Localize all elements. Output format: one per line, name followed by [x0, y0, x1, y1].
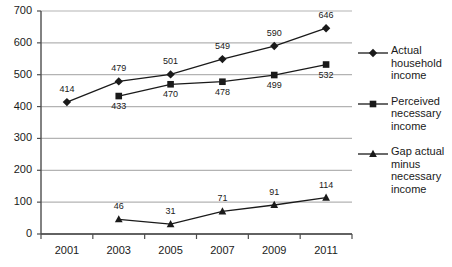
diamond-marker	[63, 98, 71, 106]
square-marker	[219, 78, 226, 85]
triangle-marker	[358, 146, 388, 158]
triangle-marker	[322, 193, 330, 200]
y-axis-tick-label: 700	[2, 5, 32, 16]
legend-item-label: Actual household income	[391, 44, 452, 82]
square-marker	[370, 100, 377, 107]
data-label: 470	[158, 90, 184, 99]
y-axis-tick-label: 200	[2, 164, 32, 175]
data-label: 501	[158, 57, 184, 66]
square-marker	[167, 81, 174, 88]
data-label: 433	[106, 102, 132, 111]
diamond-marker	[369, 49, 377, 57]
x-axis-tick-label: 2005	[147, 245, 195, 256]
legend-item-1[interactable]: Perceived necessary income	[358, 95, 452, 133]
y-axis-tick-label: 600	[2, 37, 32, 48]
legend-item-label: Gap actual minus necessary income	[391, 145, 452, 195]
y-axis-tick-label: 400	[2, 101, 32, 112]
data-label: 549	[209, 42, 235, 51]
legend-item-0[interactable]: Actual household income	[358, 44, 452, 82]
diamond-marker	[166, 70, 174, 78]
data-label: 478	[209, 88, 235, 97]
data-label: 71	[209, 194, 235, 203]
square-marker	[358, 96, 388, 108]
data-label: 590	[261, 29, 287, 38]
x-axis-tick-label: 2003	[95, 245, 143, 256]
x-axis-tick-label: 2009	[250, 245, 298, 256]
y-axis-tick-label: 500	[2, 69, 32, 80]
data-label: 532	[313, 71, 339, 80]
chart-legend: Actual household incomePerceived necessa…	[358, 44, 452, 208]
data-label: 499	[261, 81, 287, 90]
data-label: 414	[54, 85, 80, 94]
y-axis-tick-label: 100	[2, 196, 32, 207]
square-marker	[271, 72, 278, 79]
data-label: 46	[106, 202, 132, 211]
data-label: 646	[313, 11, 339, 20]
x-axis-tick-label: 2001	[43, 245, 91, 256]
square-marker	[323, 61, 330, 68]
diamond-marker	[218, 55, 226, 63]
data-label: 31	[158, 207, 184, 216]
y-axis-tick-label: 300	[2, 132, 32, 143]
x-axis-tick-label: 2007	[198, 245, 246, 256]
triangle-marker	[115, 215, 123, 222]
legend-item-2[interactable]: Gap actual minus necessary income	[358, 145, 452, 195]
diamond-marker	[358, 45, 388, 57]
line-chart: 0100200300400500600700 20012003200520072…	[0, 0, 452, 267]
square-marker	[115, 93, 122, 100]
y-axis-tick-label: 0	[2, 228, 32, 239]
diamond-marker	[115, 77, 123, 85]
legend-item-label: Perceived necessary income	[391, 95, 452, 133]
diamond-marker	[322, 24, 330, 32]
data-label: 114	[313, 181, 339, 190]
x-axis-tick-label: 2011	[302, 245, 350, 256]
data-label: 91	[261, 188, 287, 197]
data-label: 479	[106, 64, 132, 73]
